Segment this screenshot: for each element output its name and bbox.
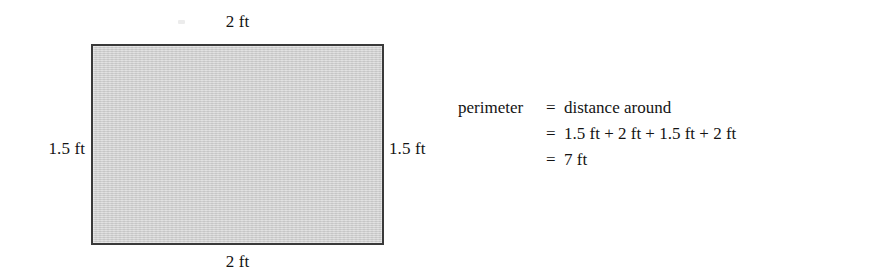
equals-sign: = — [546, 95, 564, 121]
calculation-value: 7 ft — [564, 147, 587, 173]
calculation-line: =7 ft — [458, 147, 736, 173]
shaded-rectangle — [91, 44, 384, 245]
dimension-label-top: 2 ft — [91, 12, 384, 31]
perimeter-calculation: perimeter=distance around =1.5 ft + 2 ft… — [458, 95, 736, 173]
calculation-line: =1.5 ft + 2 ft + 1.5 ft + 2 ft — [458, 121, 736, 147]
calculation-term: perimeter — [458, 95, 546, 121]
dimension-label-bottom: 2 ft — [91, 252, 384, 271]
figure-canvas: 2 ft 2 ft 1.5 ft 1.5 ft perimeter=distan… — [0, 0, 869, 278]
calculation-value: distance around — [564, 95, 671, 121]
dimension-label-left: 1.5 ft — [0, 139, 85, 158]
equals-sign: = — [546, 147, 564, 173]
dimension-label-right: 1.5 ft — [389, 139, 425, 158]
calculation-line: perimeter=distance around — [458, 95, 736, 121]
equals-sign: = — [546, 121, 564, 147]
calculation-value: 1.5 ft + 2 ft + 1.5 ft + 2 ft — [564, 121, 736, 147]
